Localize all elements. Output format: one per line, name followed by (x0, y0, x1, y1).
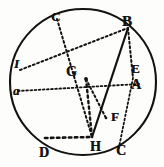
point-label-d: D (39, 146, 49, 160)
point-label-a: A (131, 78, 141, 92)
point-label-f: F (111, 110, 119, 123)
vertex-dot-F (105, 117, 108, 120)
point-label-i: I (14, 57, 19, 70)
point-label-b: B (122, 14, 132, 29)
vertex-dot-G (84, 77, 88, 81)
geometry-figure: BCEAIaGFHCD (0, 0, 164, 167)
point-label-h: H (90, 140, 101, 154)
chord-B-to-H (92, 28, 128, 137)
point-label-a: a (13, 84, 19, 97)
point-label-e: E (131, 62, 139, 75)
chord-D-to-H (45, 137, 92, 138)
vertex-dot-H (91, 136, 94, 139)
point-label-c2: C (116, 144, 126, 158)
point-label-c1: C (51, 10, 60, 23)
point-label-g: G (66, 65, 77, 79)
